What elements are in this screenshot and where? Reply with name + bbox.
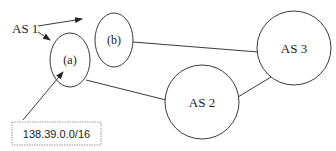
node-a-label: (a): [63, 53, 76, 67]
node-as3: AS 3: [257, 11, 331, 85]
as-topology-diagram: (a) (b) AS 2 AS 3 AS 1 138.39.0.0/16: [0, 0, 336, 151]
edge-b-as3: [133, 42, 258, 52]
arrow-as1-to-b: [38, 19, 82, 26]
node-b: (b): [95, 13, 133, 67]
node-as2-label: AS 2: [189, 95, 215, 110]
node-b-label: (b): [107, 33, 121, 47]
prefix-box: 138.39.0.0/16: [12, 122, 101, 145]
edge-as2-as3: [238, 77, 271, 97]
node-as2: AS 2: [165, 65, 239, 139]
edge-a-as2: [86, 80, 166, 100]
as1-label: AS 1: [12, 21, 38, 36]
diagram-canvas: (a) (b) AS 2 AS 3 AS 1 138.39.0.0/16: [0, 0, 336, 151]
node-as3-label: AS 3: [281, 41, 307, 56]
arrow-prefix-to-a: [23, 72, 63, 120]
prefix-box-text: 138.39.0.0/16: [23, 128, 90, 140]
node-a: (a): [50, 33, 90, 87]
arrow-as1-to-a: [38, 32, 50, 40]
